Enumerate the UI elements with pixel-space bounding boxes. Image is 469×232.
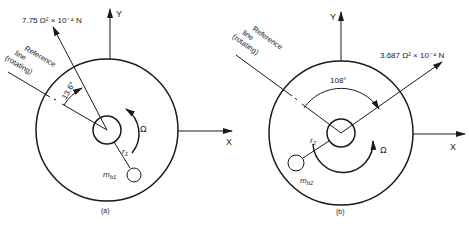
mass-label: mb1	[103, 170, 116, 180]
angle-label: 13.6°	[60, 80, 77, 101]
unbalance-mass	[127, 168, 141, 182]
unbalance-mass	[288, 155, 304, 171]
omega-label: Ω	[140, 124, 147, 134]
force-vector-arrow	[341, 62, 442, 133]
omega-label: Ω	[380, 145, 387, 155]
force-label: 3.687 Ω² × 10⁻⁴ N	[380, 51, 445, 60]
angle-label: 108°	[330, 76, 347, 85]
x-axis-label: X	[226, 137, 232, 147]
radius-label: r1	[122, 147, 128, 157]
y-axis-label: Y	[116, 9, 122, 19]
rotation-arrow	[126, 109, 139, 153]
caption-a: (a)	[101, 207, 110, 215]
reference-line-label: Reference line (rotating)	[231, 17, 285, 66]
caption-b: (b)	[336, 208, 345, 216]
x-axis-label: X	[450, 142, 456, 152]
reference-line-label: Reference line (rotating)	[4, 38, 58, 85]
y-axis-label: Y	[330, 12, 336, 22]
angle-arc	[304, 88, 379, 109]
diagram-a: Y X 7.75 Ω² × 10⁻⁴ N Reference line (rot…	[4, 9, 232, 215]
radius-label: r2	[310, 136, 317, 146]
force-label: 7.75 Ω² × 10⁻⁴ N	[22, 16, 82, 25]
reference-line-inner	[302, 104, 341, 133]
diagram-b: Y X 3.687 Ω² × 10⁻⁴ N Reference line (ro…	[231, 12, 465, 216]
mass-label: mb2	[300, 176, 314, 186]
reference-line	[236, 55, 292, 96]
balancing-diagram-figure: Y X 7.75 Ω² × 10⁻⁴ N Reference line (rot…	[0, 0, 469, 232]
